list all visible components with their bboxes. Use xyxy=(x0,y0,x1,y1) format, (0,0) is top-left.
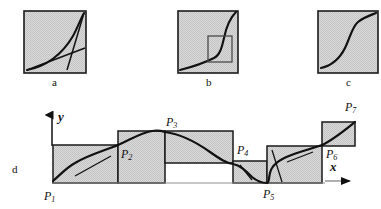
panel-c-group xyxy=(318,11,378,73)
panel-d-group xyxy=(52,115,355,183)
control-point-label-p6: P6 xyxy=(326,148,337,160)
figure-root: a b c d y x P1 P2 P3 P4 P5 P6 P7 xyxy=(0,0,381,209)
control-point-p6-index: 6 xyxy=(333,153,337,162)
panel-a-letter: a xyxy=(52,77,57,88)
control-point-label-p2: P2 xyxy=(121,148,132,160)
segment-box-3 xyxy=(165,131,233,163)
control-point-label-p3: P3 xyxy=(166,116,177,128)
panel-b-group xyxy=(178,11,238,73)
control-point-label-p7: P7 xyxy=(345,101,356,113)
control-point-p2-index: 2 xyxy=(128,153,132,162)
panel-a-group xyxy=(24,11,86,73)
control-point-p7-index: 7 xyxy=(352,106,356,115)
control-point-label-p5: P5 xyxy=(263,188,274,200)
figure-canvas xyxy=(0,0,381,209)
control-point-p1-index: 1 xyxy=(51,195,55,204)
panel-c-letter: c xyxy=(346,77,351,88)
segment-box-4 xyxy=(233,161,267,183)
panel-d-letter: d xyxy=(12,164,18,175)
segment-box-1 xyxy=(53,145,118,183)
y-axis-label: y xyxy=(58,110,64,123)
control-point-p4-index: 4 xyxy=(244,149,248,158)
control-point-label-p1: P1 xyxy=(44,190,55,202)
control-point-p5-index: 5 xyxy=(270,193,274,202)
panel-a-box xyxy=(24,11,86,73)
panel-b-letter: b xyxy=(206,77,212,88)
control-point-p3-index: 3 xyxy=(173,121,177,130)
control-point-label-p4: P4 xyxy=(237,144,248,156)
